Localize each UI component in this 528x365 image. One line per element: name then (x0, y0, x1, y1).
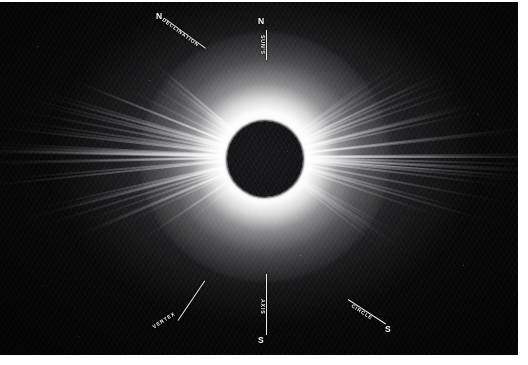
photographic-plate-field: N DECLINATION N SUN'S VERTEX AXIS S CIRC… (0, 2, 518, 355)
sun-axis-north-line (266, 30, 267, 60)
sun-axis-cardinal-n: N (258, 16, 265, 26)
moon-disk (227, 121, 303, 197)
axis-cardinal-s: S (258, 335, 264, 345)
moon-grain (227, 121, 303, 197)
sun-axis-south-line (266, 274, 267, 335)
circle-cardinal-s: S (385, 324, 391, 334)
axis-label: AXIS (260, 299, 266, 315)
corona-group (0, 2, 518, 355)
sun-axis-label: SUN'S (260, 35, 266, 55)
eclipse-plate: N DECLINATION N SUN'S VERTEX AXIS S CIRC… (0, 0, 528, 365)
